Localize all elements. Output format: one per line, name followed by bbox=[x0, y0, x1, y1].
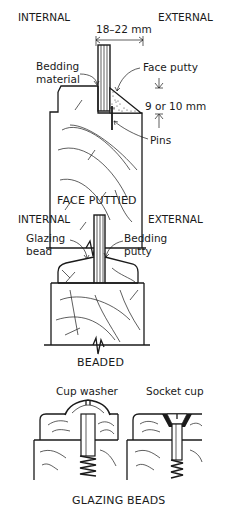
caption-glazing-beads: GLAZING BEADS bbox=[72, 495, 166, 507]
dimension-glazing-width: 18–22 mm bbox=[96, 24, 152, 36]
socket-cup-drawing bbox=[127, 414, 202, 480]
glazing-diagram: INTERNAL EXTERNAL 18–22 mm Bedding mater… bbox=[0, 0, 225, 515]
label-bedding-putty-line2: putty bbox=[124, 246, 152, 258]
label-external: EXTERNAL bbox=[158, 12, 213, 24]
label-bedding-putty-line1: Bedding bbox=[124, 233, 167, 245]
dimension-putty-height: 9 or 10 mm bbox=[145, 101, 206, 113]
label-glazing-bead-line1: Glazing bbox=[26, 233, 65, 245]
cup-washer-drawing bbox=[34, 400, 118, 480]
caption-face-puttied: FACE PUTTIED bbox=[57, 195, 137, 207]
label-glazing-bead-line2: bead bbox=[26, 246, 52, 258]
label-internal-2: INTERNAL bbox=[18, 214, 70, 226]
label-external-2: EXTERNAL bbox=[148, 214, 203, 226]
label-bedding-material-line1: Bedding bbox=[36, 61, 79, 73]
label-internal: INTERNAL bbox=[18, 12, 70, 24]
label-pins: Pins bbox=[150, 135, 171, 147]
label-socket-cup: Socket cup bbox=[146, 386, 204, 398]
label-bedding-material-line2: material bbox=[36, 74, 80, 86]
label-face-putty: Face putty bbox=[143, 62, 198, 74]
label-cup-washer: Cup washer bbox=[56, 386, 118, 398]
caption-beaded: BEADED bbox=[77, 357, 124, 369]
